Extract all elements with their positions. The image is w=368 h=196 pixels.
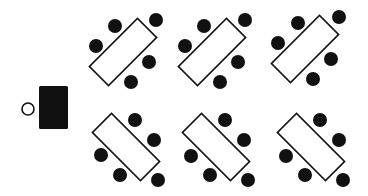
student-chair — [231, 55, 245, 69]
student-chair — [298, 168, 312, 182]
classroom-diagram — [0, 0, 368, 196]
teacher-desk — [39, 86, 68, 129]
table-group-top-2 — [178, 13, 252, 89]
student-chair — [324, 52, 338, 66]
student-chair — [332, 10, 346, 24]
student-chair — [306, 72, 320, 86]
table-group-top-1 — [89, 13, 163, 89]
student-table — [92, 113, 159, 180]
student-table — [277, 113, 344, 180]
student-chair — [149, 13, 163, 27]
student-chair — [238, 13, 252, 27]
student-chair — [237, 133, 251, 147]
student-chair — [197, 19, 211, 33]
table-group-top-3 — [271, 10, 346, 86]
student-chair — [279, 149, 293, 163]
table-group-bottom-2 — [182, 113, 255, 187]
student-chair — [213, 75, 227, 89]
student-chair — [94, 148, 108, 162]
student-chair — [124, 75, 138, 89]
table-group-bottom-1 — [92, 113, 165, 187]
student-chair — [336, 173, 350, 187]
table-group-bottom-3 — [277, 113, 350, 187]
student-chair — [108, 19, 122, 33]
student-chair — [89, 39, 103, 53]
student-chair — [271, 36, 285, 50]
student-chair — [178, 39, 192, 53]
student-chair — [218, 113, 232, 127]
student-chair — [184, 149, 198, 163]
student-chair — [332, 133, 346, 147]
student-chair — [291, 16, 305, 30]
student-chair — [313, 113, 327, 127]
seating-canvas — [0, 0, 368, 196]
student-chair — [128, 113, 142, 127]
student-chair — [147, 133, 161, 147]
student-chair — [241, 173, 255, 187]
student-chair — [142, 55, 156, 69]
student-chair — [151, 173, 165, 187]
student-chair — [203, 168, 217, 182]
student-table — [182, 113, 249, 180]
teacher-chair — [22, 103, 34, 115]
student-chair — [113, 168, 127, 182]
teacher-area — [22, 86, 68, 129]
